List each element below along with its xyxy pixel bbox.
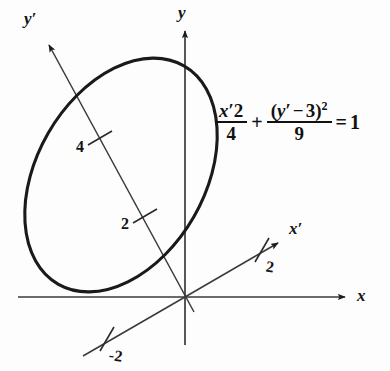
y-axis-label: y: [178, 4, 186, 21]
y-prime-axis-label: y′: [24, 10, 36, 27]
equation-term-1-numerator: x′2: [215, 101, 247, 121]
equation-equals-sign: =: [333, 112, 350, 132]
equation-term-2-exponent: 2: [322, 99, 328, 113]
equation-term-2-minus: −: [291, 100, 306, 121]
ellipse-equation: x′2 4 + (y′−3)2 9 = 1: [214, 100, 363, 143]
equation-term-1-denominator: 4: [222, 123, 240, 143]
tick-y-prime-4: [88, 131, 112, 145]
equation-term-2-variable: y: [277, 100, 285, 121]
equation-term-2: (y′−3)2 9: [267, 100, 332, 143]
equation-term-1-exponent: 2: [234, 100, 244, 121]
equation-term-2-constant: 3: [306, 100, 316, 121]
conic-section-figure: y′ y x′ x 4 2 2 -2 x′2 4 + (y′−3)2 9 = 1: [0, 0, 390, 371]
tick-label-y-prime-4: 4: [76, 139, 84, 155]
figure-canvas: [0, 0, 390, 371]
x-prime-axis-negative-branch: [83, 297, 185, 356]
equation-plus-operator: +: [248, 112, 265, 132]
equation-term-2-numerator: (y′−3)2: [267, 100, 332, 121]
equation-right-hand-side: 1: [350, 112, 363, 132]
tick-label-y-prime-2: 2: [121, 216, 129, 232]
equation-term-1-variable: x: [219, 100, 229, 121]
x-prime-axis-label: x′: [289, 220, 302, 237]
ellipse-curve: [0, 24, 257, 326]
tick-label-x-prime-negative-2: -2: [108, 347, 123, 365]
y-prime-axis-line: [49, 45, 194, 312]
x-axis-label: x: [357, 287, 366, 304]
x-prime-axis-line: [185, 243, 278, 297]
equation-term-2-denominator: 9: [290, 123, 308, 143]
equation-term-1: x′2 4: [215, 101, 247, 143]
